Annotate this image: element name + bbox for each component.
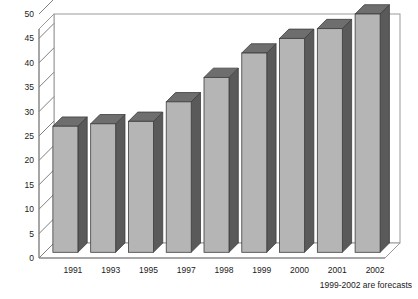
bar bbox=[128, 112, 162, 252]
y-tick-label: 20 bbox=[25, 155, 35, 165]
bar-side-face bbox=[153, 112, 162, 252]
bar-side-face bbox=[267, 44, 276, 253]
bar-side-face bbox=[116, 115, 125, 253]
bar-front-face bbox=[166, 102, 191, 252]
bar bbox=[53, 117, 87, 252]
bar-side-face bbox=[305, 29, 314, 252]
x-tick-label: 1991 bbox=[63, 265, 82, 275]
bar-front-face bbox=[317, 29, 342, 253]
y-tick-label: 35 bbox=[25, 82, 35, 92]
bar-front-face bbox=[128, 121, 153, 252]
bar-front-face bbox=[280, 38, 305, 252]
x-tick-label: 1995 bbox=[139, 265, 158, 275]
x-tick-label: 2002 bbox=[366, 265, 385, 275]
y-axis-tick-labels: 05101520253035404550 bbox=[25, 9, 35, 263]
y-tick-label: 25 bbox=[25, 131, 35, 141]
bar-side-face bbox=[78, 117, 87, 252]
chart-canvas: 05101520253035404550 1991199319951997199… bbox=[0, 0, 418, 299]
x-tick-label: 1998 bbox=[215, 265, 234, 275]
bar bbox=[204, 68, 238, 252]
bar-side-face bbox=[380, 5, 389, 253]
y-tick-label: 0 bbox=[29, 253, 34, 263]
x-tick-label: 1993 bbox=[101, 265, 120, 275]
bar bbox=[355, 5, 389, 253]
x-tick-label: 2000 bbox=[290, 265, 309, 275]
y-tick-label: 10 bbox=[25, 204, 35, 214]
bar-front-face bbox=[355, 14, 380, 252]
bar-chart: 05101520253035404550 1991199319951997199… bbox=[0, 0, 418, 299]
bar-front-face bbox=[204, 77, 229, 252]
y-tick-label: 45 bbox=[25, 33, 35, 43]
y-tick-label: 30 bbox=[25, 107, 35, 117]
x-tick-label: 2001 bbox=[328, 265, 347, 275]
y-tick-label: 40 bbox=[25, 58, 35, 68]
bar bbox=[317, 19, 351, 252]
bar bbox=[242, 44, 276, 253]
bar-front-face bbox=[91, 124, 116, 253]
y-tick-label: 15 bbox=[25, 180, 35, 190]
bar-side-face bbox=[191, 93, 200, 253]
bar-front-face bbox=[53, 126, 78, 252]
y-tick-label: 50 bbox=[25, 9, 35, 19]
bar bbox=[166, 93, 200, 253]
bar bbox=[280, 29, 314, 252]
bar bbox=[91, 115, 125, 253]
bar-side-face bbox=[229, 68, 238, 252]
x-tick-label: 1997 bbox=[177, 265, 196, 275]
x-axis-category-labels: 199119931995199719981999200020012002 bbox=[63, 265, 384, 275]
y-tick-label: 5 bbox=[29, 229, 34, 239]
x-tick-label: 1999 bbox=[252, 265, 271, 275]
bar-side-face bbox=[342, 19, 351, 252]
bar-front-face bbox=[242, 53, 267, 252]
